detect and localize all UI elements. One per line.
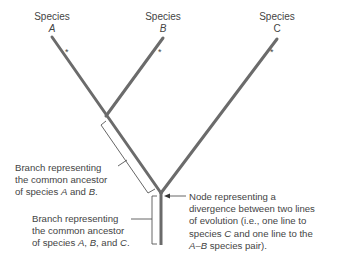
species-c-label: Species C (257, 11, 297, 35)
text: , and (96, 237, 120, 248)
abc-annotation-line1: Branch representing (32, 213, 130, 225)
node-annotation-line1: Node representing a (189, 191, 315, 203)
species-c-letter: C (257, 23, 297, 35)
abc-branch-bracket (152, 196, 157, 244)
ab-pair-ref: A–B (189, 240, 207, 251)
text: . (127, 237, 130, 248)
species-b-label: Species B (143, 11, 183, 35)
node-annotation-line5: A–B species pair). (189, 240, 315, 252)
species-a-word: Species (32, 11, 72, 23)
text: of species (15, 186, 61, 197)
ab-branch-annotation: Branch representing the common ancestor … (15, 162, 107, 199)
abc-annotation-line3: of species A, B, and C. (32, 237, 130, 249)
asterisk-b: * (158, 46, 162, 58)
ab-annotation-line3: of species A and B. (15, 186, 107, 198)
species-c-word: Species (257, 11, 297, 23)
ab-branch-leader (118, 160, 127, 166)
branch-species-b (106, 38, 163, 116)
node-annotation: Node representing a divergence between t… (189, 191, 315, 252)
species-a-letter: A (32, 23, 72, 35)
ab-annotation-line2: the common ancestor (15, 174, 107, 186)
text: and (67, 186, 88, 197)
node-arrow-head (164, 194, 170, 199)
species-b-word: Species (143, 11, 183, 23)
species-a-label: Species A (32, 11, 72, 35)
species-b-letter: B (143, 23, 183, 35)
node-annotation-line4: species C and one line to the (189, 228, 315, 240)
text: species (189, 228, 224, 239)
ab-annotation-line1: Branch representing (15, 162, 107, 174)
asterisk-a: * (65, 46, 69, 58)
text: species pair). (207, 240, 267, 251)
text: . (95, 186, 98, 197)
asterisk-c: * (270, 46, 274, 58)
ab-branch-bracket (101, 121, 155, 193)
branch-species-c (161, 39, 277, 193)
node-annotation-line2: divergence between two lines (189, 203, 315, 215)
abc-branch-annotation: Branch representing the common ancestor … (32, 213, 130, 250)
species-c-ref: C (120, 237, 127, 248)
node-annotation-line3: of evolution (i.e., one line to (189, 215, 315, 227)
text: and one line to the (231, 228, 313, 239)
text: of species (32, 237, 78, 248)
abc-annotation-line2: the common ancestor (32, 225, 130, 237)
